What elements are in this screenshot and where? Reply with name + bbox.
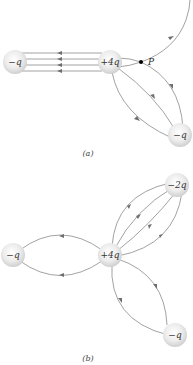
field-lines-b-left: [20, 234, 102, 277]
field-lines-a-left: [22, 51, 102, 73]
arrow-icon: [57, 63, 62, 67]
charge-b-left-minus-q: −q: [1, 243, 25, 267]
arrow-icon: [153, 284, 157, 289]
arrow-icon: [57, 51, 62, 55]
field-lines-figure: −q +4q −q P (a): [0, 0, 193, 365]
charge-a-left-minus-q: −q: [3, 50, 27, 74]
arrow-icon: [57, 57, 62, 61]
field-lines-b-lower: [112, 259, 168, 335]
svg-text:−q: −q: [168, 330, 182, 340]
charge-b-minus-2q: −2q: [165, 173, 189, 197]
svg-text:−q: −q: [173, 130, 187, 140]
svg-text:+4q: +4q: [100, 250, 119, 260]
svg-text:P: P: [147, 57, 155, 67]
arrow-icon: [148, 224, 152, 229]
arrow-icon: [168, 36, 174, 40]
charge-b-lower-minus-q: −q: [163, 323, 187, 347]
panel-a: −q +4q −q P (a): [3, 0, 192, 158]
svg-text:+4q: +4q: [100, 57, 119, 67]
charge-a-lower-minus-q: −q: [168, 123, 192, 147]
arrow-icon: [59, 273, 64, 277]
arrow-icon: [134, 116, 140, 121]
arrow-icon: [57, 69, 62, 73]
panel-label-a: (a): [82, 149, 93, 158]
charge-b-plus-4q: +4q: [98, 243, 122, 267]
panel-b: −q +4q −2q −q (b): [1, 173, 189, 363]
arrow-icon: [127, 204, 131, 209]
charge-a-plus-4q: +4q: [98, 50, 122, 74]
svg-text:−2q: −2q: [167, 180, 186, 190]
svg-text:−q: −q: [8, 57, 22, 67]
panel-label-b: (b): [82, 354, 93, 363]
svg-text:−q: −q: [6, 250, 20, 260]
